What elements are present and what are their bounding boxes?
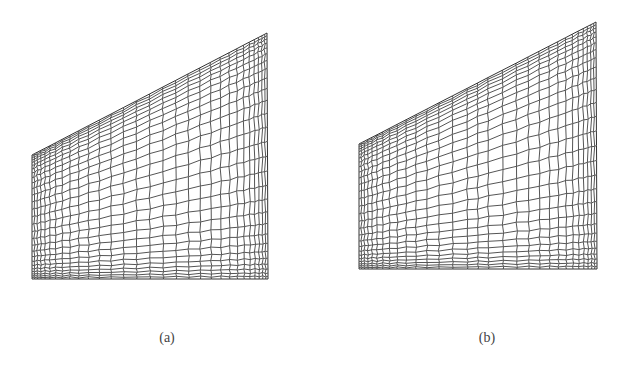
mesh-panel-a [32, 33, 268, 279]
figure: (a) (b) [0, 0, 629, 368]
mesh-figure [0, 0, 629, 368]
mesh-panel-b [359, 22, 597, 269]
caption-b: (b) [467, 330, 507, 346]
caption-a: (a) [147, 330, 187, 346]
